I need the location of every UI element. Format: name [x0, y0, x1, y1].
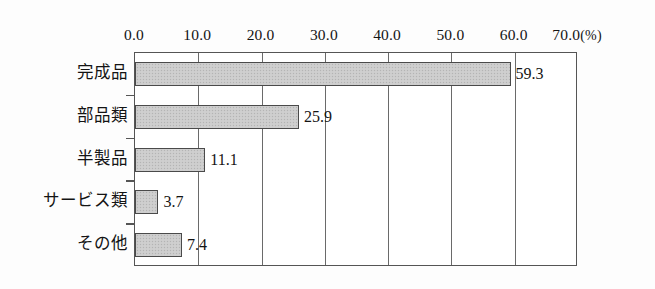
- category-label-2: 半製品: [0, 138, 128, 181]
- bar-row: 25.9: [135, 96, 576, 139]
- xtick-label-0: 0.0: [124, 26, 144, 44]
- bar-value-3: 3.7: [158, 190, 183, 214]
- category-label-0: 完成品: [0, 52, 128, 95]
- bar-row: 3.7: [135, 181, 576, 224]
- bar-value-4: 7.4: [182, 233, 207, 257]
- x-axis-unit-label: (%): [580, 28, 602, 43]
- bar-2: [135, 148, 205, 172]
- xtick-label-7-value: 70.0: [552, 26, 580, 43]
- bar-row: 11.1: [135, 139, 576, 182]
- xtick-label-4: 40.0: [373, 26, 401, 44]
- bar-chart: 0.0 10.0 20.0 30.0 40.0 50.0 60.0 70.0(%…: [0, 0, 655, 289]
- category-label-4: その他: [0, 223, 128, 266]
- category-label-1: 部品類: [0, 95, 128, 138]
- bar-row: 59.3: [135, 53, 576, 96]
- xtick-label-6: 60.0: [500, 26, 528, 44]
- bar-value-0: 59.3: [511, 62, 544, 86]
- bar-4: [135, 233, 182, 257]
- category-label-3: サービス類: [0, 180, 128, 223]
- bar-0: [135, 62, 511, 86]
- plot-area: 59.3 25.9 11.1 3.7 7.4: [134, 52, 577, 266]
- xtick-label-7: 70.0(%): [552, 26, 602, 44]
- bar-3: [135, 190, 158, 214]
- xtick-label-5: 50.0: [436, 26, 464, 44]
- bar-row: 7.4: [135, 224, 576, 267]
- bar-value-2: 11.1: [205, 148, 237, 172]
- xtick-label-3: 30.0: [310, 26, 338, 44]
- xtick-label-1: 10.0: [183, 26, 211, 44]
- bar-1: [135, 105, 299, 129]
- bar-value-1: 25.9: [299, 105, 332, 129]
- xtick-label-2: 20.0: [247, 26, 275, 44]
